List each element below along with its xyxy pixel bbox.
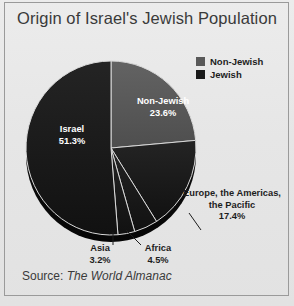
slice-label-non-jewish: Non-Jewish 23.6% [126, 96, 200, 119]
pie-chart-figure: Origin of Israel's Jewish Population Non… [0, 0, 294, 306]
slice-label-non-jewish-name: Non-Jewish [137, 96, 189, 106]
slice-label-europe-value: 17.4% [176, 211, 288, 223]
slice-label-africa-name: Africa [145, 243, 171, 253]
slice-label-europe-line2: the Pacific [176, 200, 288, 212]
slice-label-africa-value: 4.5% [135, 255, 181, 267]
slice-label-europe: Europe, the Americas, the Pacific 17.4% [176, 188, 288, 223]
slice-label-asia: Asia 3.2% [78, 243, 122, 266]
slice-label-israel-value: 51.3% [42, 136, 102, 148]
pie-slices [26, 61, 196, 235]
source-work-title: The World Almanac [67, 269, 172, 283]
source-note: Source: The World Almanac [22, 269, 172, 283]
slice-label-israel-name: Israel [60, 124, 84, 134]
slice-label-asia-name: Asia [90, 243, 110, 253]
legend-label-jewish: Jewish [210, 69, 242, 80]
legend-label-non-jewish: Non-Jewish [210, 56, 263, 67]
slice-label-africa: Africa 4.5% [135, 243, 181, 266]
chart-title: Origin of Israel's Jewish Population [0, 9, 294, 28]
slice-label-non-jewish-value: 23.6% [126, 108, 200, 120]
slice-label-israel: Israel 51.3% [42, 124, 102, 147]
slice-label-asia-value: 3.2% [78, 255, 122, 267]
legend-item-jewish: Jewish [196, 69, 263, 80]
source-prefix: Source: [22, 269, 67, 283]
pie-slice [26, 61, 118, 235]
legend-item-non-jewish: Non-Jewish [196, 56, 263, 67]
slice-label-europe-line1: Europe, the Americas, [183, 188, 281, 198]
chart-legend: Non-Jewish Jewish [196, 56, 263, 82]
